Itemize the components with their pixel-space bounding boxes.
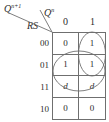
kmap-cell-r11-c1: d [79,76,105,98]
row-header-00: 00 [18,39,49,48]
karnaugh-map-figure: Qn+1 Qn RS 0 1 00 01 11 10 0 1 1 1 d d 0… [0,0,109,122]
kmap-cell-r01-c0: 1 [53,55,79,77]
column-header-1: 1 [79,17,106,27]
kmap-cell-r00-c0: 0 [53,33,79,55]
column-header-0: 0 [52,17,79,27]
kmap-cell-r01-c1: 1 [79,55,105,77]
kmap-cell-r10-c0: 0 [53,98,79,120]
row-header-10: 10 [18,105,49,114]
kmap-grid: 0 1 1 1 d d 0 0 [52,32,106,120]
kmap-cell-r10-c1: 0 [79,98,105,120]
row-header-11: 11 [18,83,49,92]
output-variable-label: Qn+1 [4,4,21,14]
kmap-cell-r00-c1: 1 [79,33,105,55]
row-variable-label: RS [27,21,38,31]
kmap-cell-r11-c0: d [53,76,79,98]
row-header-01: 01 [18,61,49,70]
